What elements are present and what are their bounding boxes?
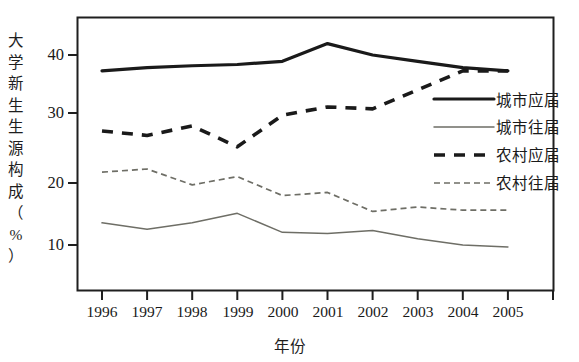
series-line-0	[102, 44, 508, 71]
x-axis-label: 年份	[0, 334, 579, 356]
x-tick-label-1997: 1997	[123, 303, 171, 321]
series-line-1	[102, 213, 508, 247]
legend-label-1: 城市往届	[496, 120, 560, 136]
plot-frame	[78, 18, 554, 291]
series-line-3	[102, 169, 508, 211]
series-layer	[102, 44, 508, 247]
legend-label-3: 农村往届	[496, 176, 560, 192]
line-chart-figure: 大学新生生源构成（%） 40 30 20 10 1996 1997 1998 1…	[0, 0, 579, 362]
legend-label-2: 农村应届	[496, 148, 560, 164]
x-tick-label-1998: 1998	[168, 303, 216, 321]
x-tick-label-1999: 1999	[214, 303, 262, 321]
series-line-2	[102, 71, 508, 147]
x-tick-label-2003: 2003	[394, 303, 442, 321]
x-tick-label-2000: 2000	[259, 303, 307, 321]
x-tick-label-2005: 2005	[484, 303, 532, 321]
x-tick-label-2004: 2004	[439, 303, 487, 321]
x-tick-label-2001: 2001	[304, 303, 352, 321]
x-tick-label-2002: 2002	[349, 303, 397, 321]
legend-label-0: 城市应届	[496, 93, 560, 109]
x-tick-label-1996: 1996	[78, 303, 126, 321]
